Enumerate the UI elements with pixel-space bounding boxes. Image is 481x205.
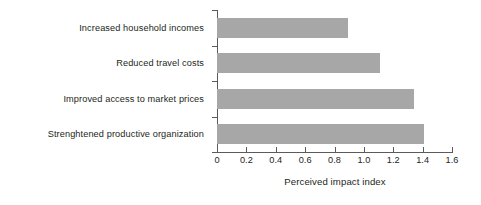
bar [217,89,414,109]
x-axis-tick [393,147,394,152]
x-axis-tick [364,147,365,152]
x-axis-tick-label: 1.2 [387,155,400,165]
x-axis-tick [246,147,247,152]
bar [217,124,424,144]
x-axis-tick-label: 1.0 [357,155,370,165]
category-label-row: Improved access to market prices [0,81,211,117]
category-label: Improved access to market prices [63,94,204,104]
category-label: Reduced travel costs [116,58,204,68]
x-axis-tick-label: 1.4 [416,155,429,165]
x-axis-line [217,152,453,153]
y-axis-tick [212,152,217,153]
x-axis-tick-label: 0.2 [240,155,253,165]
x-axis-title: Perceived impact index [217,176,453,187]
x-axis-tick [217,147,218,152]
category-label: Strenghtened productive organization [48,129,204,139]
bar-row [217,81,452,117]
bar [217,18,348,38]
category-label: Increased household incomes [79,23,204,33]
category-label-row: Increased household incomes [0,10,211,46]
x-axis-tick-label: 0 [214,155,219,165]
x-axis-tick [423,147,424,152]
x-axis-tick-label: 0.6 [299,155,312,165]
x-axis-tick [276,147,277,152]
x-axis-tick-label: 0.4 [269,155,282,165]
x-axis-tick-label: 0.8 [328,155,341,165]
bar-chart: Increased household incomes Reduced trav… [0,0,481,205]
x-axis-tick [335,147,336,152]
category-label-row: Strenghtened productive organization [0,117,211,153]
category-axis-labels: Increased household incomes Reduced trav… [0,10,211,152]
x-axis-tick [305,147,306,152]
x-axis-tick [452,147,453,152]
bar-series [217,10,452,152]
bar [217,53,380,73]
bar-row [217,46,452,82]
x-axis-tick-label: 1.6 [446,155,459,165]
bar-row [217,10,452,46]
category-label-row: Reduced travel costs [0,46,211,82]
